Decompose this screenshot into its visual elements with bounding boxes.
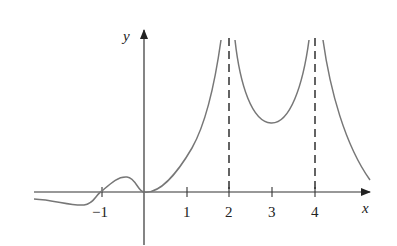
- function-graph: y x −1 1 2 3 4: [0, 0, 397, 246]
- tick-label-1: 1: [183, 204, 191, 220]
- curve-segment-left: [34, 40, 221, 205]
- tick-label-neg1: −1: [92, 204, 108, 220]
- curve-segment-middle: [235, 40, 309, 123]
- curve-segment-right: [323, 40, 370, 180]
- x-axis-label: x: [361, 200, 369, 216]
- function-curve: [34, 40, 370, 205]
- tick-label-3: 3: [268, 204, 276, 220]
- tick-label-4: 4: [311, 204, 319, 220]
- y-axis-label: y: [121, 28, 130, 44]
- tick-label-2: 2: [225, 204, 233, 220]
